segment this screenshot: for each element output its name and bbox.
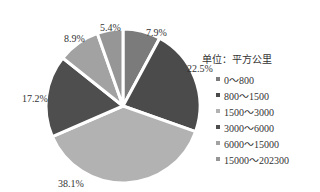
slice-label-0-800: 7.9% bbox=[146, 27, 167, 38]
legend-item: 1500～3000 bbox=[216, 103, 289, 119]
legend-label: 800～1500 bbox=[224, 88, 269, 103]
legend-swatch bbox=[216, 125, 220, 129]
legend-swatch bbox=[216, 93, 220, 97]
legend-item: 3000～6000 bbox=[216, 119, 289, 135]
legend: 单位：平方公里 0～800 800～1500 1500～3000 3000～60… bbox=[216, 51, 289, 167]
legend-label: 1500～3000 bbox=[224, 104, 274, 119]
legend-label: 0～800 bbox=[224, 72, 254, 87]
legend-label: 6000～15000 bbox=[224, 136, 279, 151]
legend-swatch bbox=[216, 109, 220, 113]
legend-label: 3000～6000 bbox=[224, 120, 274, 135]
legend-swatch bbox=[216, 157, 220, 161]
legend-swatch bbox=[216, 141, 220, 145]
slice-label-6000-15000: 8.9% bbox=[64, 33, 85, 44]
legend-swatch bbox=[216, 77, 220, 81]
legend-item: 15000～202300 bbox=[216, 151, 289, 167]
slice-label-3000-6000: 17.2% bbox=[22, 93, 48, 104]
legend-label: 15000～202300 bbox=[224, 152, 289, 167]
unit-label: 单位：平方公里 bbox=[202, 51, 289, 66]
slice-label-15000-202300: 5.4% bbox=[100, 22, 121, 33]
legend-item: 6000～15000 bbox=[216, 135, 289, 151]
slice-label-1500-3000: 38.1% bbox=[58, 178, 84, 189]
legend-item: 0～800 bbox=[216, 71, 289, 87]
legend-item: 800～1500 bbox=[216, 87, 289, 103]
